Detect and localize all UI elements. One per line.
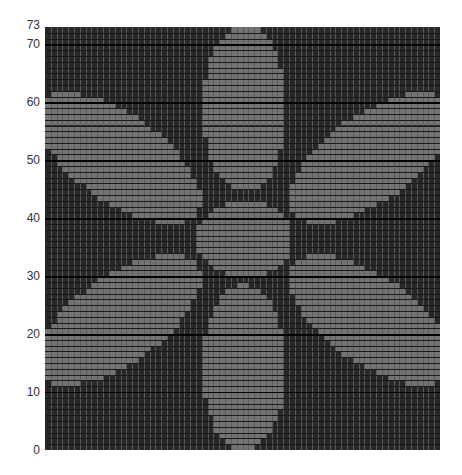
grid-hline (45, 421, 440, 422)
grid-hline (45, 409, 440, 410)
grid-major-hline (45, 276, 440, 277)
grid-hline (45, 380, 440, 381)
grid-hline (45, 357, 440, 358)
grid-hline (45, 108, 440, 109)
grid-hline (45, 195, 440, 196)
grid-hline (45, 282, 440, 283)
grid-hline (45, 369, 440, 370)
grid-major-hline (45, 218, 440, 219)
y-tick-label: 60 (27, 95, 40, 109)
grid-hline (45, 415, 440, 416)
grid-hline (45, 386, 440, 387)
grid-hline (45, 154, 440, 155)
grid-hline (45, 79, 440, 80)
y-tick-label: 20 (27, 327, 40, 341)
y-tick-label: 30 (27, 269, 40, 283)
grid-hline (45, 438, 440, 439)
grid-major-hline (45, 44, 440, 45)
grid-hline (45, 212, 440, 213)
grid-hline (45, 375, 440, 376)
grid-hline (45, 317, 440, 318)
grid-hline (45, 149, 440, 150)
grid-hline (45, 166, 440, 167)
grid-hline (45, 126, 440, 127)
grid-hline (45, 253, 440, 254)
grid-hline (45, 91, 440, 92)
grid-hline (45, 323, 440, 324)
grid-hline (45, 404, 440, 405)
grid-hline (45, 340, 440, 341)
y-tick-label: 10 (27, 385, 40, 399)
grid-hline (45, 241, 440, 242)
y-tick-label: 50 (27, 153, 40, 167)
grid-major-hline (45, 392, 440, 393)
grid-hline (45, 247, 440, 248)
grid-hline (45, 299, 440, 300)
grid-hline (45, 311, 440, 312)
grid-hline (45, 224, 440, 225)
grid-hline (45, 433, 440, 434)
grid-hline (45, 270, 440, 271)
grid-hline (45, 444, 440, 445)
grid-hline (45, 183, 440, 184)
grid-hline (45, 294, 440, 295)
grid-hline (45, 178, 440, 179)
grid-hline (45, 172, 440, 173)
y-tick-label: 73 (27, 18, 40, 32)
grid-hline (45, 39, 440, 40)
grid-major-hline (45, 102, 440, 103)
cell-grid (45, 27, 440, 450)
grid-hline (45, 328, 440, 329)
grid-hline (45, 73, 440, 74)
y-tick-label: 40 (27, 211, 40, 225)
grid-hline (45, 68, 440, 69)
grid-hline (45, 230, 440, 231)
grid-hline (45, 305, 440, 306)
grid-hline (45, 97, 440, 98)
grid-hline (45, 259, 440, 260)
grid-hline (45, 56, 440, 57)
grid-hline (45, 120, 440, 121)
grid-hline (45, 131, 440, 132)
grid-hline (45, 62, 440, 63)
grid-hline (45, 363, 440, 364)
grid-hline (45, 85, 440, 86)
grid-hline (45, 427, 440, 428)
grid-hline (45, 33, 440, 34)
y-tick-label: 0 (33, 443, 40, 457)
grid-hline (45, 236, 440, 237)
grid-hline (45, 288, 440, 289)
grid-major-hline (45, 334, 440, 335)
grid-hline (45, 114, 440, 115)
grid-hline (45, 201, 440, 202)
grid-hline (45, 398, 440, 399)
grid-hline (45, 265, 440, 266)
grid-hline (45, 346, 440, 347)
grid-hline (45, 143, 440, 144)
y-tick-label: 70 (27, 37, 40, 51)
grid-major-hline (45, 160, 440, 161)
grid-hline (45, 189, 440, 190)
grid-hline (45, 351, 440, 352)
flower-grid-chart (45, 27, 440, 450)
grid-hline (45, 137, 440, 138)
grid-hline (45, 50, 440, 51)
grid-hline (45, 207, 440, 208)
